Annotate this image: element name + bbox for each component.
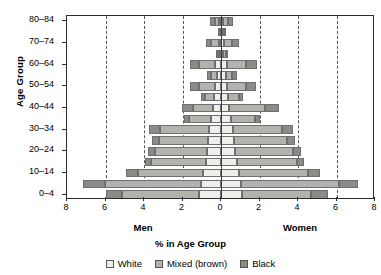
bar-segment-women-white [221, 104, 229, 112]
bar-segment-women-black [226, 50, 228, 58]
bar-segment-men-black [201, 93, 205, 101]
y-tick-label: 50–54 [29, 80, 54, 89]
bar-segment-women-black [232, 71, 236, 79]
bar-segment-women-mixed-brown [237, 158, 298, 166]
bar-segment-women-black [311, 190, 328, 198]
y-tick-label: 80–84 [29, 15, 54, 24]
bar-segment-men-mixed-brown [211, 39, 218, 47]
chart-legend: WhiteMixed (brown)Black [0, 258, 381, 269]
bar-segment-men-mixed-brown [159, 136, 208, 144]
bar-segment-men-black [210, 17, 215, 25]
bar-segment-women-white [221, 147, 235, 155]
bar-segment-men-white [208, 136, 221, 144]
bar-segment-women-mixed-brown [227, 60, 246, 68]
bar-row [67, 28, 373, 36]
bar-segment-men-mixed-brown [122, 190, 199, 198]
bar-segment-women-black [297, 158, 304, 166]
bar-segment-men-white [206, 158, 221, 166]
bar-segment-men-mixed-brown [151, 158, 206, 166]
bar-segment-women-black [255, 115, 260, 123]
x-tick-label: 6 [326, 202, 346, 212]
bar-segment-women-black [308, 169, 321, 177]
x-tick-mark [182, 197, 183, 201]
bar-segment-men-black [83, 180, 104, 188]
bar-row [67, 39, 373, 47]
bar-segment-women-mixed-brown [233, 125, 282, 133]
bar-row [67, 50, 373, 58]
bar-segment-women-mixed-brown [242, 190, 310, 198]
legend-item: White [106, 258, 142, 269]
x-tick-label: 8 [56, 202, 76, 212]
bar-segment-women-white [221, 180, 241, 188]
x-tick-mark [259, 197, 260, 201]
bar-segment-women-black [339, 180, 357, 188]
bar-segment-women-black [287, 136, 295, 144]
x-tick-label: 8 [364, 202, 381, 212]
bar-segment-men-mixed-brown [193, 104, 213, 112]
bar-segment-men-black [190, 60, 199, 68]
bar-segment-men-mixed-brown [138, 169, 202, 177]
bar-segment-men-black [190, 82, 199, 90]
x-tick-label: 0 [210, 202, 230, 212]
bar-segment-women-black [282, 125, 293, 133]
y-tick-mark [62, 107, 66, 108]
bar-segment-men-black [152, 136, 159, 144]
y-tick-label: 30–34 [29, 124, 54, 133]
bar-row [67, 115, 373, 123]
bar-row [67, 169, 373, 177]
plot-area [66, 15, 374, 199]
x-tick-label: 6 [95, 202, 115, 212]
legend-swatch [106, 260, 114, 268]
y-tick-mark [62, 129, 66, 130]
x-tick-mark [105, 197, 106, 201]
bar-segment-women-mixed-brown [226, 71, 233, 79]
bar-segment-women-white [221, 158, 237, 166]
y-tick-mark [62, 42, 66, 43]
x-tick-mark [297, 197, 298, 201]
bar-segment-men-mixed-brown [189, 115, 211, 123]
bar-segment-women-white [221, 136, 234, 144]
x-tick-mark [336, 197, 337, 201]
women-label: Women [260, 222, 340, 233]
bar-row [67, 180, 373, 188]
bar-segment-men-black [126, 169, 139, 177]
legend-label: Black [252, 258, 275, 269]
bar-row [67, 158, 373, 166]
bar-segment-women-mixed-brown [235, 147, 293, 155]
x-tick-label: 2 [249, 202, 269, 212]
bar-segment-men-mixed-brown [199, 82, 215, 90]
y-tick-mark [62, 150, 66, 151]
bar-segment-women-black [224, 28, 226, 36]
x-tick-mark [66, 197, 67, 201]
x-axis-tick-labels: 864202468 [0, 202, 381, 218]
bar-segment-women-white [221, 190, 242, 198]
bar-segment-men-white [203, 169, 221, 177]
bar-segment-men-black [206, 39, 212, 47]
men-label: Men [103, 222, 183, 233]
bar-segment-men-black [182, 104, 193, 112]
bar-segment-men-white [211, 115, 221, 123]
x-axis-title: % in Age Group [0, 238, 381, 249]
bar-row [67, 93, 373, 101]
bar-segment-women-mixed-brown [227, 82, 246, 90]
bar-segment-men-black [184, 115, 189, 123]
bar-segment-men-mixed-brown [105, 180, 201, 188]
y-tick-label: 60–64 [29, 59, 54, 68]
y-tick-label: 0–4 [39, 189, 54, 198]
bar-segment-women-black [228, 17, 233, 25]
bar-segment-men-white [214, 93, 221, 101]
y-tick-mark [62, 194, 66, 195]
legend-item: Black [240, 258, 275, 269]
bar-segment-men-black [218, 28, 220, 36]
bar-segment-men-mixed-brown [205, 93, 215, 101]
bar-segment-men-white [201, 180, 221, 188]
bar-segment-men-white [209, 125, 221, 133]
bar-row [67, 60, 373, 68]
bar-segment-women-black [246, 60, 257, 68]
bar-segment-women-black [239, 93, 243, 101]
bar-segment-women-mixed-brown [228, 93, 239, 101]
bar-segment-men-mixed-brown [160, 125, 209, 133]
bar-segment-women-white [221, 125, 233, 133]
bar-segment-men-black [145, 158, 151, 166]
bar-row [67, 82, 373, 90]
